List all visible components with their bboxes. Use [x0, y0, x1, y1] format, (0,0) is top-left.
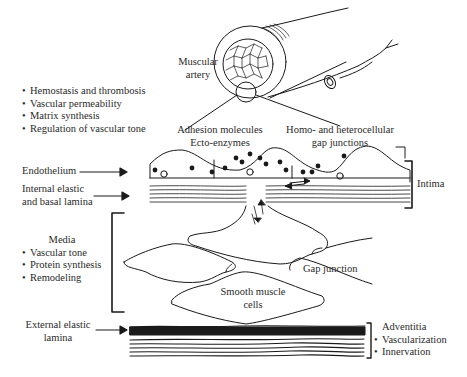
media-item: Protein synthesis — [22, 259, 102, 272]
function-item: Hemostasis and thrombosis — [22, 85, 146, 98]
adventitia-block: Adventitia Vascularization Innervation — [374, 321, 447, 359]
media-block: Media Vascular tone Protein synthesis Re… — [22, 234, 102, 284]
internal-elastic-lamina — [150, 186, 410, 224]
function-item: Vascular permeability — [22, 98, 146, 111]
gap-junctions-line-2: gap junctions — [265, 137, 415, 150]
endothelium-layer — [150, 146, 410, 189]
media-item: Vascular tone — [22, 247, 102, 260]
external-elastic-line-2: lamina — [18, 332, 98, 345]
internal-elastic-line-1: Internal elastic — [22, 183, 93, 196]
adventitia-item: Innervation — [374, 346, 447, 359]
external-elastic-label: External elastic lamina — [18, 319, 98, 344]
media-item: Remodeling — [22, 272, 102, 285]
internal-elastic-line-2: and basal lamina — [22, 196, 93, 209]
media-bracket — [112, 213, 124, 312]
external-elastic-line-1: External elastic — [18, 319, 98, 332]
adhesion-line-2: Ecto-enzymes — [160, 137, 280, 150]
adventitia-bracket — [367, 323, 371, 358]
muscular-artery-line-1: Muscular — [163, 56, 233, 69]
intima-label: Intima — [417, 178, 444, 191]
gap-junctions-callout-label: Homo- and heterocellular gap junctions — [265, 124, 415, 149]
internal-elastic-label: Internal elastic and basal lamina — [22, 183, 93, 208]
adhesion-molecules-label: Adhesion molecules Ecto-enzymes — [160, 124, 280, 149]
external-elastic-lamina — [130, 326, 365, 335]
adventitia-item: Vascularization — [374, 334, 447, 347]
media-functions-list: Vascular tone Protein synthesis Remodeli… — [22, 247, 102, 285]
smooth-muscle-line-2: cells — [208, 299, 298, 312]
endothelium-label: Endothelium — [22, 165, 76, 178]
muscular-artery-label: Muscular artery — [163, 56, 233, 81]
gap-junction-label: Gap junction — [303, 263, 358, 276]
adventitia-fibers — [130, 339, 364, 356]
media-title: Media — [22, 234, 102, 247]
muscular-artery-line-2: artery — [163, 69, 233, 82]
function-item: Regulation of vascular tone — [22, 123, 146, 136]
adhesion-line-1: Adhesion molecules — [160, 124, 280, 137]
adventitia-functions-list: Vascularization Innervation — [374, 334, 447, 359]
gap-junctions-line-1: Homo- and heterocellular — [265, 124, 415, 137]
endothelium-functions-list: Hemostasis and thrombosis Vascular perme… — [22, 85, 146, 135]
smooth-muscle-label: Smooth muscle cells — [208, 286, 298, 311]
function-item: Matrix synthesis — [22, 110, 146, 123]
adventitia-title: Adventitia — [374, 321, 447, 334]
smooth-muscle-line-1: Smooth muscle — [208, 286, 298, 299]
